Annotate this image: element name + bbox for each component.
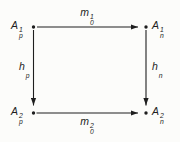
node-dot-bottom-left: [32, 111, 35, 114]
node-dot-top-right: [144, 25, 147, 28]
node-label-bottom-right: A2n: [152, 106, 164, 125]
node-base: A: [11, 106, 18, 116]
edge-scripts: p: [26, 67, 30, 79]
node-dot-bottom-right: [144, 111, 147, 114]
edge-label-right: hn: [152, 61, 163, 79]
edge-sub: p: [26, 73, 30, 79]
node-label-top-left: A1p: [11, 20, 23, 39]
edge-sub: 0: [90, 129, 94, 135]
node-scripts: 2n: [160, 113, 164, 125]
edge-scripts: 20: [90, 123, 94, 135]
node-scripts: 2p: [19, 113, 23, 125]
node-scripts: 1p: [19, 27, 23, 39]
edge-base: m: [80, 7, 89, 17]
edge-base: h: [19, 61, 25, 71]
edge-base: h: [152, 61, 158, 71]
edge-scripts: 10: [90, 14, 94, 26]
node-base: A: [152, 20, 159, 30]
commutative-diagram: A1p A1n A2p A2n m10 m20 hp hn: [0, 0, 180, 142]
node-sub: n: [160, 33, 164, 39]
edge-sub: n: [159, 73, 163, 79]
node-label-bottom-left: A2p: [11, 106, 23, 125]
node-scripts: 1n: [160, 27, 164, 39]
node-sub: n: [160, 119, 164, 125]
edge-sub: 0: [90, 20, 94, 26]
node-dot-top-left: [32, 25, 35, 28]
edge-base: m: [80, 116, 89, 126]
node-label-top-right: A1n: [152, 20, 164, 39]
edge-label-bottom: m20: [80, 116, 94, 135]
edge-label-top: m10: [80, 7, 94, 26]
node-sub: p: [19, 33, 23, 39]
node-base: A: [152, 106, 159, 116]
node-sub: p: [19, 119, 23, 125]
edge-scripts: n: [159, 67, 163, 79]
edge-label-left: hp: [19, 61, 30, 79]
node-base: A: [11, 20, 18, 30]
